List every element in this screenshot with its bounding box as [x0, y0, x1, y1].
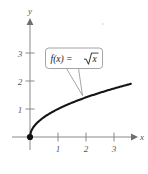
x-tick-label-2: 2 — [84, 144, 89, 154]
y-tick-label-2: 2 — [18, 77, 23, 87]
y-axis-label: y — [27, 6, 32, 16]
x-axis-arrow-icon — [131, 134, 138, 141]
x-tick-label-1: 1 — [56, 144, 61, 154]
x-axis-label: x — [139, 132, 144, 142]
y-tick-label-3: 3 — [17, 49, 23, 59]
callout-radicand: x — [92, 54, 98, 64]
origin-point-marker — [27, 134, 33, 140]
scan-speck — [102, 23, 104, 25]
x-tick-label-3: 3 — [111, 144, 117, 154]
square-root-function-chart: 1 2 3 1 2 3 x y f(x) = x — [0, 0, 148, 174]
y-tick-label-1: 1 — [18, 105, 23, 115]
figure-container: 1 2 3 1 2 3 x y f(x) = x — [0, 0, 148, 174]
y-axis-arrow-icon — [27, 18, 34, 25]
callout-function-prefix: f(x) = — [51, 54, 73, 65]
callout-tail — [67, 69, 83, 96]
